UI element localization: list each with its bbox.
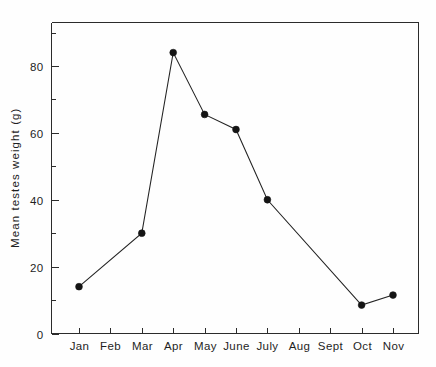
data-point-apr: [170, 49, 177, 56]
x-tick-label-mar: Mar: [132, 340, 153, 352]
x-tick-label-nov: Nov: [383, 340, 405, 352]
x-tick-label-jan: Jan: [70, 340, 90, 352]
x-tick-label-may: May: [194, 340, 217, 352]
data-point-may: [201, 111, 208, 118]
y-axis-title-text: Mean testes weight (g): [9, 107, 21, 248]
data-point-jan: [76, 283, 83, 290]
x-tick-label-feb: Feb: [100, 340, 121, 352]
x-tick-label-sept: Sept: [318, 340, 344, 352]
data-point-nov: [390, 292, 397, 299]
data-point-mar: [138, 230, 145, 237]
line-chart: 020406080 JanFebMarAprMayJuneJulyAugSept…: [0, 0, 436, 367]
x-axis-tick-labels: JanFebMarAprMayJuneJulyAugSeptOctNov: [70, 340, 405, 352]
data-point-oct: [358, 302, 365, 309]
chart-background: [0, 0, 436, 367]
data-point-july: [264, 196, 271, 203]
chart-figure: 020406080 JanFebMarAprMayJuneJulyAugSept…: [0, 0, 436, 367]
x-tick-label-oct: Oct: [353, 340, 372, 352]
y-tick-label: 40: [30, 195, 44, 207]
x-tick-label-aug: Aug: [289, 340, 311, 352]
y-tick-label: 0: [37, 329, 44, 341]
y-axis-title: Mean testes weight (g): [9, 107, 21, 248]
y-tick-label: 60: [30, 128, 44, 140]
x-tick-label-apr: Apr: [164, 340, 183, 352]
x-tick-label-june: June: [223, 340, 250, 352]
data-point-june: [233, 126, 240, 133]
y-tick-label: 20: [30, 262, 44, 274]
x-tick-label-july: July: [256, 340, 278, 352]
y-tick-label: 80: [30, 61, 44, 73]
